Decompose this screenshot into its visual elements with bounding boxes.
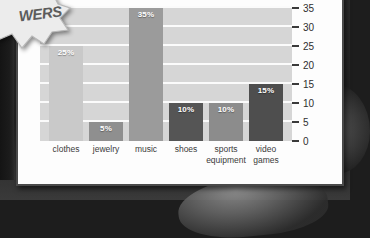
bar-value-label: 15% — [258, 87, 275, 95]
y-axis-tick-mark — [292, 121, 299, 123]
y-axis-tick-mark — [292, 64, 299, 66]
bar-slot: 10% — [206, 8, 246, 141]
bar-value-label: 35% — [138, 11, 155, 19]
y-axis-tick-mark — [292, 7, 299, 9]
bar[interactable]: 5% — [89, 122, 123, 141]
y-axis-tick-mark — [292, 102, 299, 104]
y-axis-tick-label: 35 — [303, 3, 319, 14]
starburst-callout-icon — [0, 0, 82, 52]
bar-slot: 5% — [86, 8, 126, 141]
y-axis-tick-mark — [292, 26, 299, 28]
bar[interactable]: 25% — [49, 46, 83, 141]
x-axis-tick-label: music — [126, 142, 166, 168]
y-axis-tick-label: 25 — [303, 41, 319, 52]
y-axis: 05101520253035 — [292, 8, 336, 141]
x-axis-tick-label: jewelry — [86, 142, 126, 168]
y-axis-tick-label: 10 — [303, 98, 319, 109]
y-axis-tick-label: 0 — [303, 136, 319, 147]
x-axis-labels: clothesjewelrymusicshoessports equipment… — [40, 142, 292, 168]
y-axis-tick-mark — [292, 83, 299, 85]
y-axis-tick-mark — [292, 140, 299, 142]
x-axis-tick-label: shoes — [166, 142, 206, 168]
x-axis-tick-label: sports equipment — [206, 142, 246, 168]
bar-value-label: 10% — [218, 106, 235, 114]
bar-slot: 35% — [126, 8, 166, 141]
bar[interactable]: 15% — [249, 84, 283, 141]
y-axis-tick-label: 15 — [303, 79, 319, 90]
x-axis-tick-label: video games — [246, 142, 286, 168]
y-axis-tick-label: 30 — [303, 22, 319, 33]
bar[interactable]: 35% — [129, 8, 163, 141]
y-axis-tick-label: 5 — [303, 117, 319, 128]
y-axis-tick-mark — [292, 45, 299, 47]
bar-value-label: 5% — [100, 125, 112, 133]
bar[interactable]: 10% — [209, 103, 243, 141]
bar-slot: 15% — [246, 8, 286, 141]
bar[interactable]: 10% — [169, 103, 203, 141]
bar-slot: 10% — [166, 8, 206, 141]
y-axis-tick-label: 20 — [303, 60, 319, 71]
x-axis-tick-label: clothes — [46, 142, 86, 168]
bar-value-label: 10% — [178, 106, 195, 114]
